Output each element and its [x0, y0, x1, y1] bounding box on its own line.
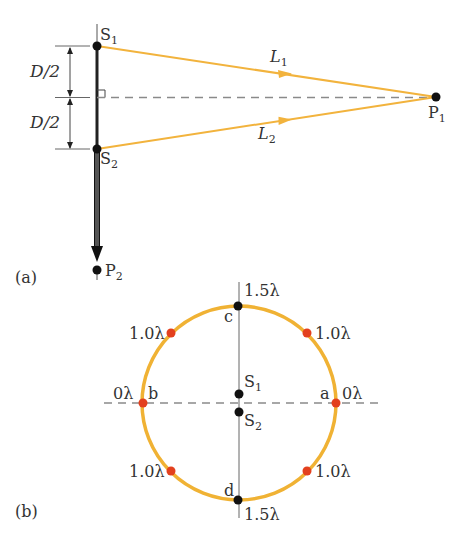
point-upper-right-dot — [303, 329, 312, 338]
pd-label-bottom: 1.5λ — [244, 505, 280, 524]
point-p1-dot — [432, 93, 441, 102]
arrow-l2-icon — [278, 115, 293, 125]
dimension-label-lower: D/2 — [29, 112, 60, 132]
point-p2-dot — [93, 266, 102, 275]
source-s1-dot-b — [235, 390, 244, 399]
path-label-l1: L1 — [269, 47, 288, 69]
label-c: c — [224, 307, 233, 326]
path-label-l2: L2 — [257, 124, 276, 146]
point-lower-left-dot — [167, 467, 176, 476]
pd-label-lower-left: 1.0λ — [129, 462, 165, 481]
dimension-label-upper: D/2 — [29, 61, 60, 81]
label-s2: S2 — [100, 149, 118, 171]
interference-diagram: D/2 D/2 L1 L2 S1 S2 P1 P2 (a) — [0, 0, 465, 535]
label-b: b — [148, 384, 158, 403]
pd-label-upper-left: 1.0λ — [129, 324, 165, 343]
dimension-markers — [55, 46, 90, 149]
label-s2-b: S2 — [244, 411, 262, 433]
pd-label-top: 1.5λ — [244, 281, 280, 300]
panel-a: D/2 D/2 L1 L2 S1 S2 P1 P2 (a) — [15, 24, 446, 287]
source-s2-dot-b — [235, 408, 244, 417]
panel-b: S1 S2 c d b a 1.5λ 1.5λ 0λ 0λ 1.0λ 1.0λ … — [15, 281, 378, 524]
pd-label-upper-right: 1.0λ — [315, 324, 351, 343]
arrow-l1-icon — [278, 70, 292, 78]
label-p1: P1 — [428, 103, 446, 125]
label-d: d — [224, 481, 234, 500]
point-upper-left-dot — [167, 329, 176, 338]
label-s1: S1 — [100, 25, 118, 47]
label-s1-b: S1 — [244, 372, 262, 394]
point-lower-right-dot — [303, 467, 312, 476]
pd-label-left: 0λ — [113, 384, 133, 403]
panel-b-label: (b) — [15, 502, 38, 521]
point-d-dot — [234, 496, 243, 505]
point-b-dot — [139, 399, 148, 408]
label-p2: P2 — [105, 261, 123, 283]
path-l1 — [97, 46, 436, 97]
point-c-dot — [234, 302, 243, 311]
pd-label-lower-right: 1.0λ — [315, 462, 351, 481]
point-a-dot — [332, 399, 341, 408]
label-a: a — [320, 384, 330, 403]
panel-a-label: (a) — [15, 268, 37, 287]
pd-label-right: 0λ — [342, 384, 362, 403]
